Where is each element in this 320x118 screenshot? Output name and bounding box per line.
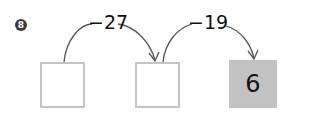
operation-label-1: −27 <box>88 11 128 33</box>
operation-label-2: −19 <box>188 11 228 33</box>
answer-box-1[interactable] <box>40 62 85 108</box>
result-box: 6 <box>229 60 277 108</box>
answer-box-2[interactable] <box>135 62 180 108</box>
